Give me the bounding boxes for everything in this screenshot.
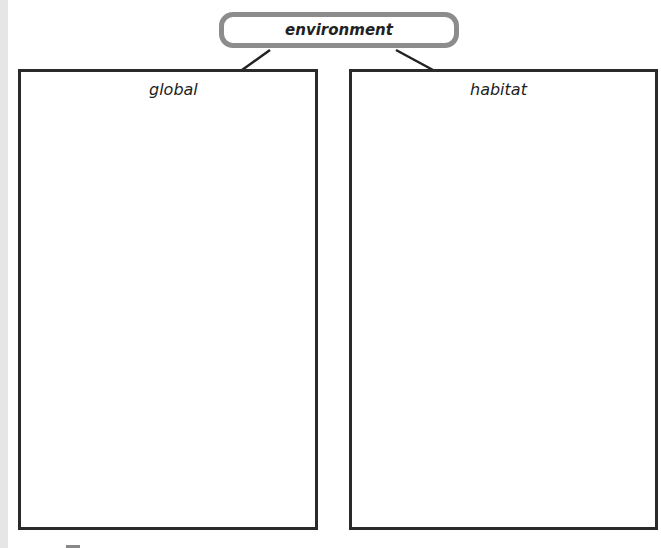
child-box-habitat[interactable]: habitat — [349, 69, 658, 530]
root-label: environment — [285, 21, 393, 39]
root-node-environment[interactable]: environment — [219, 12, 459, 48]
child-label-habitat: habitat — [470, 80, 527, 99]
connector-habitat — [396, 50, 433, 70]
connector-global — [242, 50, 270, 70]
child-box-global[interactable]: global — [18, 69, 318, 530]
child-label-global: global — [149, 80, 198, 99]
